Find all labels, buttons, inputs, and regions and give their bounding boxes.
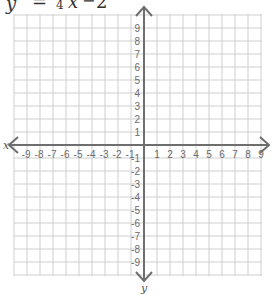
y-tick-label: 5 <box>134 75 140 86</box>
y-axis-label: y <box>140 282 148 295</box>
x-tick-label: -9 <box>22 149 31 160</box>
y-tick-label: -6 <box>131 218 140 229</box>
y-tick-label: -8 <box>131 244 140 255</box>
y-tick-label: -7 <box>131 231 140 242</box>
y-tick-label: -5 <box>131 205 140 216</box>
y-tick-label: 8 <box>134 36 140 47</box>
x-tick-label: -3 <box>100 149 109 160</box>
x-tick-label: 1 <box>154 149 160 160</box>
x-tick-label: 5 <box>206 149 212 160</box>
y-tick-label: 1 <box>134 127 140 138</box>
x-axis-label: x <box>3 139 10 152</box>
x-tick-label: -5 <box>74 149 83 160</box>
y-tick-label: -2 <box>131 166 140 177</box>
y-tick-label: 2 <box>134 114 140 125</box>
y-tick-label: 9 <box>134 23 140 34</box>
x-tick-label: 4 <box>193 149 199 160</box>
x-tick-label: -8 <box>35 149 44 160</box>
y-tick-label: -1 <box>131 153 140 164</box>
y-tick-label: 4 <box>134 88 140 99</box>
x-tick-label: 2 <box>167 149 173 160</box>
y-tick-label: 6 <box>134 62 140 73</box>
x-tick-label: 6 <box>219 149 225 160</box>
y-tick-label: 7 <box>134 49 140 60</box>
coordinate-grid: -9-8-7-6-5-4-3-2-1123456789987654321-1-2… <box>0 0 275 295</box>
y-tick-label: -4 <box>131 192 140 203</box>
x-tick-label: 7 <box>232 149 238 160</box>
x-tick-label: 8 <box>245 149 251 160</box>
y-tick-label: 3 <box>134 101 140 112</box>
x-tick-label: -6 <box>61 149 70 160</box>
x-tick-label: -4 <box>87 149 96 160</box>
x-tick-label: -7 <box>48 149 57 160</box>
x-tick-label: 3 <box>180 149 186 160</box>
y-tick-label: -9 <box>131 257 140 268</box>
x-tick-label: -2 <box>113 149 122 160</box>
x-tick-label: 9 <box>258 149 264 160</box>
y-tick-label: -3 <box>131 179 140 190</box>
